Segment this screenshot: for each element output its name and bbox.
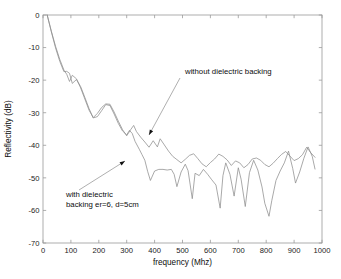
- x-tick-label-800: 800: [260, 246, 273, 255]
- annotation-without-backing-text-line-0: without dielectric backing: [184, 67, 272, 76]
- x-tick-label-500: 500: [176, 246, 189, 255]
- y-tick-label--70: -70: [29, 239, 40, 248]
- y-tick-label--20: -20: [29, 76, 40, 85]
- x-tick-label-600: 600: [204, 246, 217, 255]
- reflectivity-line-chart: 01002003004005006007008009001000 0-10-20…: [0, 0, 341, 279]
- x-tick-label-0: 0: [41, 246, 45, 255]
- x-tick-label-100: 100: [65, 246, 78, 255]
- annotation-with-backing-text-line-0: with dielectric: [65, 190, 113, 199]
- x-tick-label-1000: 1000: [314, 246, 331, 255]
- x-tick-label-300: 300: [120, 246, 133, 255]
- y-tick-label--60: -60: [29, 206, 40, 215]
- x-axis-title: frequency (Mhz): [153, 258, 212, 267]
- y-tick-label-0: 0: [35, 11, 39, 20]
- chart-figure: 01002003004005006007008009001000 0-10-20…: [0, 0, 341, 279]
- y-tick-label--30: -30: [29, 109, 40, 118]
- x-tick-label-700: 700: [232, 246, 245, 255]
- x-tick-label-900: 900: [288, 246, 301, 255]
- y-tick-label--10: -10: [29, 43, 40, 52]
- chart-background: [0, 0, 341, 279]
- x-tick-label-200: 200: [92, 246, 105, 255]
- y-tick-label--50: -50: [29, 174, 40, 183]
- x-tick-label-400: 400: [148, 246, 161, 255]
- y-tick-label--40: -40: [29, 141, 40, 150]
- annotation-with-backing-text-line-1: backing er=6, d=5cm: [66, 200, 139, 209]
- y-axis-title: Reflectivity (dB): [4, 100, 13, 158]
